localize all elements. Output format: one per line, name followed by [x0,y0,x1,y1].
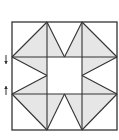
up-arrow-icon [4,86,8,95]
diagonal-lines [12,22,117,130]
quilt-block-diagram [0,0,119,140]
edge-arrows [4,55,8,95]
grid-lines [12,22,117,130]
down-arrow-icon [4,55,8,64]
shaded-triangles [12,22,117,130]
outer-square [12,22,117,130]
quilt-block-svg [0,0,119,140]
